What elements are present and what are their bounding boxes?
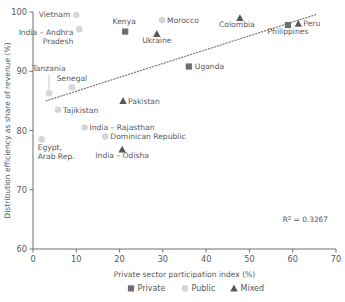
y-tick-label: 70 [17, 185, 27, 195]
data-point-egypt-arab-rep[interactable] [38, 136, 45, 143]
data-point-india-rajasthan[interactable] [81, 124, 88, 131]
point-label: Kenya [113, 17, 136, 26]
data-point-tajikistan[interactable] [55, 106, 62, 113]
data-point-uganda[interactable] [186, 63, 192, 69]
legend-label-private[interactable]: Private [138, 284, 166, 293]
x-tick-label: 40 [201, 254, 211, 264]
data-point-kenya[interactable] [122, 28, 128, 34]
x-tick-label: 30 [158, 254, 168, 264]
y-axis-title: Distribution efficiency as share of reve… [3, 42, 12, 218]
data-point-peru[interactable] [295, 20, 302, 27]
legend-marker-mixed[interactable] [230, 285, 237, 292]
scatter-chart: 60708090100010203040506070Private sector… [0, 0, 345, 302]
y-tick-label: 100 [11, 7, 27, 17]
data-point-morocco[interactable] [159, 17, 166, 24]
point-label: India – Odisha [95, 151, 149, 160]
r-squared-annotation: R2 = 0.3267 [283, 215, 329, 224]
x-tick-label: 10 [71, 254, 81, 264]
point-label: Vietnam [39, 10, 71, 19]
legend-label-public[interactable]: Public [192, 284, 216, 293]
point-label: Dominican Republic [110, 132, 185, 141]
data-point-pakistan[interactable] [119, 97, 126, 104]
x-tick-label: 50 [244, 254, 254, 264]
x-tick-label: 0 [30, 254, 35, 264]
point-label: Colombia [219, 20, 255, 29]
plot-area: 60708090100010203040506070Private sector… [0, 0, 345, 302]
legend-marker-public[interactable] [182, 285, 189, 292]
legend-label-mixed[interactable]: Mixed [241, 284, 265, 293]
data-point-india-andhra-pradesh[interactable] [76, 26, 83, 33]
data-point-tanzania[interactable] [46, 90, 53, 97]
point-label: Peru [303, 19, 320, 28]
point-label: Tajikistan [62, 106, 98, 115]
legend-marker-private[interactable] [128, 285, 134, 291]
axis-lines [33, 12, 336, 249]
point-label: Ukraine [142, 36, 172, 45]
point-label: Philippines [267, 27, 308, 36]
data-point-dominican-republic[interactable] [102, 133, 109, 140]
x-tick-label: 20 [114, 254, 124, 264]
point-label: Tanzania [31, 64, 65, 73]
y-tick-label: 80 [17, 126, 27, 136]
data-point-senegal[interactable] [69, 84, 76, 91]
legend: PrivatePublicMixed [128, 284, 264, 293]
x-tick-label: 60 [288, 254, 298, 264]
point-label: Arab Rep. [38, 152, 75, 161]
point-label: Pradesh [43, 37, 74, 46]
y-tick-label: 60 [17, 244, 27, 254]
point-label: Uganda [195, 62, 224, 71]
series-public: VietnamIndia – AndhraPradeshMoroccoTanza… [19, 10, 200, 160]
y-tick-label: 90 [17, 66, 27, 76]
x-tick-label: 70 [331, 254, 341, 264]
point-label: Senegal [57, 74, 88, 83]
x-axis-title: Private sector participation index (%) [114, 270, 256, 279]
data-point-vietnam[interactable] [73, 12, 80, 19]
point-label: Pakistan [128, 97, 160, 106]
point-label: India – Rajasthan [90, 123, 155, 132]
point-label: Morocco [167, 16, 199, 25]
